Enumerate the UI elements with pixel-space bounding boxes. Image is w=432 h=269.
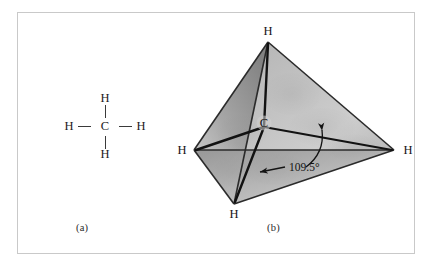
caption-b: (b): [267, 222, 280, 233]
atom-label-hydrogen-top: H: [98, 92, 112, 105]
bond-angle-label: 109.5°: [289, 161, 320, 173]
atom-label-carbon: C: [98, 120, 112, 133]
vertex-label-hydrogen-right: H: [403, 143, 412, 157]
vertex-label-hydrogen-apex: H: [263, 24, 272, 38]
vertex-label-hydrogen-front: H: [229, 207, 238, 221]
bond-c-h-top: [105, 105, 106, 118]
atom-label-hydrogen-right: H: [134, 120, 148, 133]
methane-structure-figure: C H H H H: [0, 0, 432, 269]
bond-c-h-left: [78, 126, 91, 127]
bond-c-h-right: [119, 126, 132, 127]
vertex-label-hydrogen-left: H: [177, 143, 186, 157]
caption-a: (a): [76, 222, 88, 233]
lewis-structure-methane: C H H H H: [40, 82, 170, 170]
panel-b-tetrahedral-model: H H H H C 109.5°: [172, 22, 422, 222]
panel-a-structural-formula: C H H H H: [40, 82, 170, 170]
atom-label-hydrogen-left: H: [62, 120, 76, 133]
tetrahedron-svg: H H H H C 109.5°: [172, 22, 422, 222]
atom-label-carbon-center: C: [260, 116, 268, 130]
atom-label-hydrogen-bottom: H: [98, 148, 112, 161]
